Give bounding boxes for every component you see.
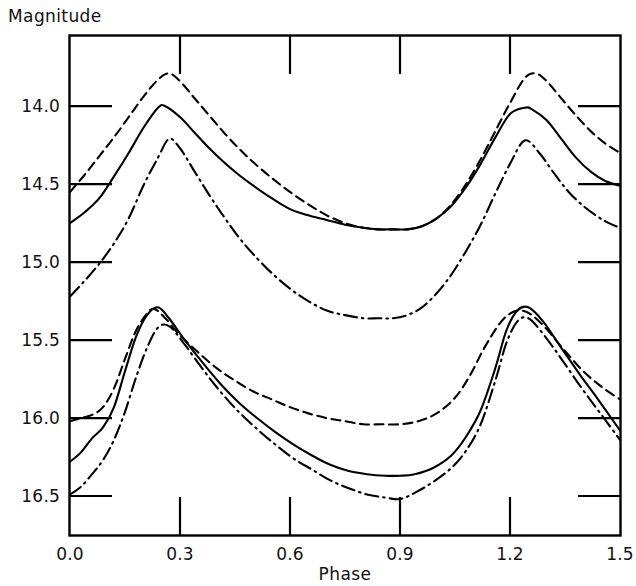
x-tick-label: 0.9 xyxy=(386,544,414,564)
data-curves xyxy=(70,73,620,499)
y-tick-label: 14.5 xyxy=(21,174,60,194)
curve-lower-band-solid xyxy=(70,306,620,475)
y-tick-label: 14.0 xyxy=(21,96,60,116)
y-tick-label: 16.0 xyxy=(21,408,60,428)
x-tick-label: 0.3 xyxy=(166,544,194,564)
x-tick-label: 0.0 xyxy=(56,544,84,564)
x-tick-label: 0.6 xyxy=(276,544,304,564)
curve-lower-band-dashdot xyxy=(70,317,620,499)
x-axis-ticks xyxy=(180,36,510,535)
light-curve-figure: 14.014.515.015.516.016.5 0.00.30.60.91.2… xyxy=(0,0,636,586)
y-tick-label: 15.5 xyxy=(21,330,60,350)
plot-frame xyxy=(70,36,621,536)
x-axis-tick-labels: 0.00.30.60.91.21.5 xyxy=(56,544,634,564)
y-axis-title: Magnitude xyxy=(8,6,102,26)
y-axis-tick-labels: 14.014.515.015.516.016.5 xyxy=(21,96,60,506)
y-tick-label: 16.5 xyxy=(21,486,60,506)
y-axis-ticks xyxy=(70,106,620,496)
y-tick-label: 15.0 xyxy=(21,252,60,272)
x-tick-label: 1.2 xyxy=(496,544,524,564)
x-axis-title: Phase xyxy=(319,564,372,584)
curve-upper-band-dashdot xyxy=(70,139,620,319)
x-tick-label: 1.5 xyxy=(606,544,634,564)
